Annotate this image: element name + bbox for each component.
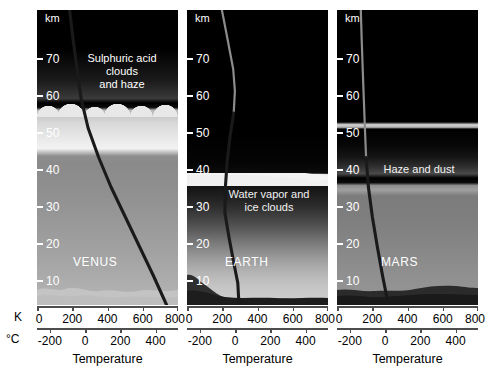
y-tick-70-venus: 70 — [37, 53, 71, 65]
y-axis-unit-mars: km — [345, 12, 360, 24]
y-tick-30-earth: 30 — [187, 201, 221, 213]
atmosphere-temperature-figure: Sulphuric acid clouds and haze VENUS Wat… — [0, 0, 496, 386]
x-axis-venus: 0 200 400 600 800 -200 0 200 400 — [37, 306, 178, 336]
x-axis-earth: 0 200 400 600 800 -200 0 200 400 — [187, 306, 328, 336]
y-tick-70-mars: 70 — [337, 53, 371, 65]
y-tick-60-mars: 60 — [337, 90, 371, 102]
earth-annotation: Water vapor and ice clouds — [209, 188, 328, 214]
y-tick-20-venus: 20 — [37, 238, 71, 250]
mars-annotation: Haze and dust — [361, 163, 477, 176]
mars-planet-label: MARS — [381, 255, 418, 269]
y-tick-10-mars: 10 — [337, 275, 371, 287]
y-tick-10-venus: 10 — [37, 275, 71, 287]
x-axis-celsius-row-mars: -200 0 200 400 — [337, 328, 478, 342]
y-tick-40-mars: 40 — [337, 164, 371, 176]
y-axis-venus: km 70 60 50 40 30 20 10 — [37, 10, 71, 305]
y-tick-30-venus: 30 — [37, 201, 71, 213]
y-tick-40-venus: 40 — [37, 164, 71, 176]
x-axis-title-venus: Temperature — [37, 352, 178, 366]
y-tick-50-mars: 50 — [337, 127, 371, 139]
y-tick-20-earth: 20 — [187, 238, 221, 250]
y-tick-50-earth: 50 — [187, 127, 221, 139]
venus-planet-label: VENUS — [73, 255, 117, 269]
x-axis-title-earth: Temperature — [187, 352, 328, 366]
x-axis-unit-celsius: °C — [6, 332, 19, 346]
y-axis-unit-earth: km — [195, 12, 210, 24]
y-tick-40-earth: 40 — [187, 164, 221, 176]
y-tick-20-mars: 20 — [337, 238, 371, 250]
y-axis-unit-venus: km — [45, 12, 60, 24]
x-axis-mars: 0 200 400 600 800 -200 0 200 400 — [337, 306, 478, 336]
y-tick-70-earth: 70 — [187, 53, 221, 65]
y-tick-10-earth: 10 — [187, 275, 221, 287]
y-axis-mars: km 70 60 50 40 30 20 10 — [337, 10, 371, 305]
x-axis-unit-kelvin: K — [14, 310, 22, 324]
x-axis-kelvin-row-earth: 0 200 400 600 800 — [187, 306, 328, 320]
y-tick-60-earth: 60 — [187, 90, 221, 102]
x-axis-celsius-row-venus: -200 0 200 400 — [37, 328, 178, 342]
x-axis-kelvin-row-venus: 0 200 400 600 800 — [37, 306, 178, 320]
x-axis-title-mars: Temperature — [337, 352, 478, 366]
x-axis-celsius-row-earth: -200 0 200 400 — [187, 328, 328, 342]
y-tick-50-venus: 50 — [37, 127, 71, 139]
x-axis-kelvin-row-mars: 0 200 400 600 800 — [337, 306, 478, 320]
y-axis-earth: km 70 60 50 40 30 20 10 — [187, 10, 221, 305]
earth-planet-label: EARTH — [225, 255, 268, 269]
venus-annotation: Sulphuric acid clouds and haze — [67, 52, 177, 91]
y-tick-60-venus: 60 — [37, 90, 71, 102]
y-tick-30-mars: 30 — [337, 201, 371, 213]
